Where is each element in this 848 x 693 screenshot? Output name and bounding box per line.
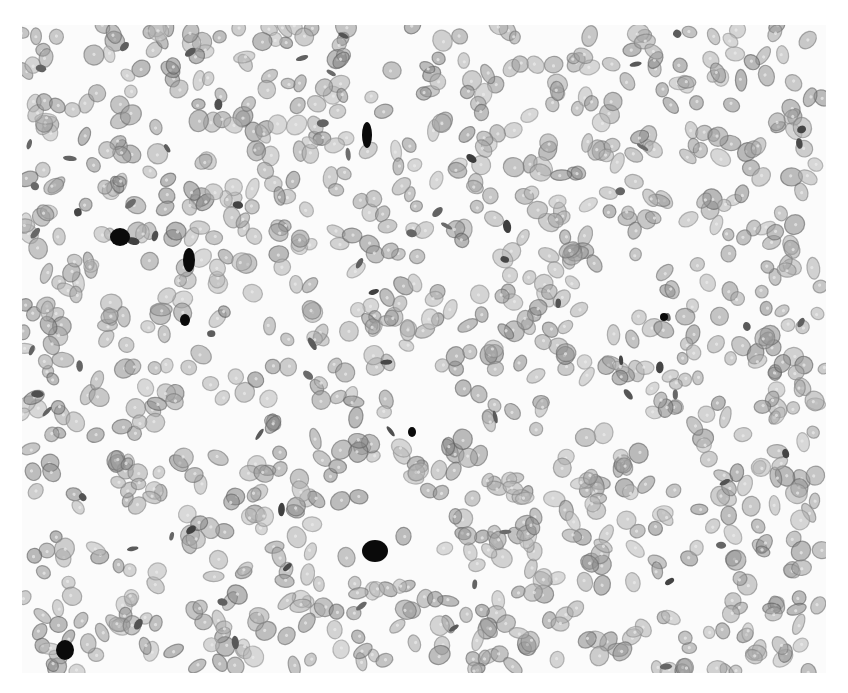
tissue-canvas — [22, 25, 826, 673]
microscopy-image: Grayscale microscopy image of a tissue s… — [22, 25, 826, 673]
